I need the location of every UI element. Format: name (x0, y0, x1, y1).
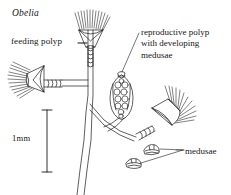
polyp-stalk-annulated-top (88, 46, 93, 67)
scale-bar-label: 1mm (12, 133, 31, 143)
feeding-polyp-right (136, 86, 196, 140)
scale-bar (42, 110, 52, 172)
polyp-stalk-annulated-left (44, 80, 62, 87)
leader-medusae-lower (141, 150, 183, 163)
label-reproductive-polyp-line3: medusae (141, 50, 173, 60)
stolon-branch-left (62, 80, 88, 86)
taxon-name: Obelia (12, 8, 39, 18)
label-feeding-polyp: feeding polyp (11, 36, 62, 46)
free-medusa-lower (126, 159, 141, 169)
feeding-polyp-left (8, 62, 62, 98)
tentacles-top (75, 10, 110, 30)
label-medusae: medusae (185, 146, 217, 156)
label-reproductive-polyp-line2: with developing (141, 38, 199, 48)
polyp-stalk-annulated-right (136, 126, 155, 140)
label-reproductive-polyp: reproductive polypwith developingmedusae (141, 27, 231, 61)
feeding-polyp-top (75, 10, 110, 67)
hydranth-bell-left (26, 66, 44, 92)
hydranth-bell-top (79, 30, 103, 49)
free-medusa-upper (144, 145, 159, 155)
leader-reproductive-polyp (122, 33, 139, 72)
developing-medusae (114, 79, 128, 119)
label-reproductive-polyp-line1: reproductive polyp (141, 27, 209, 37)
reproductive-polyp-gonangium (104, 72, 133, 132)
tentacles-right (165, 86, 196, 123)
tentacles-left (8, 62, 34, 98)
